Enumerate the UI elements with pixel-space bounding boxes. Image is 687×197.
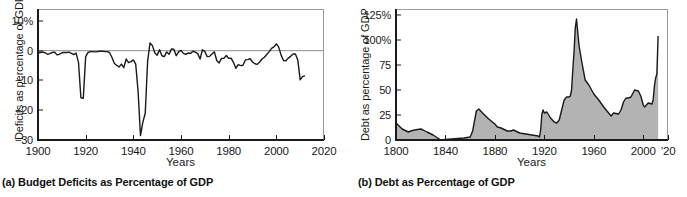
x-axis-title-b: Years — [395, 156, 668, 168]
x-axis-spine-a — [37, 139, 324, 141]
debt-area-series — [396, 9, 668, 140]
panel-caption-a: (a) Budget Deficits as Percentage of GDP — [2, 176, 213, 188]
deficit-line-series — [38, 9, 324, 140]
y-axis-spine-a — [37, 9, 39, 140]
y-tick-label: 50 — [379, 84, 396, 96]
x-axis-spine-b — [395, 139, 668, 141]
y-tick-label: 25 — [379, 109, 396, 121]
y-tick-label: −20 — [15, 104, 38, 116]
y-tick-label: 100% — [364, 34, 396, 46]
x-tick-mark — [324, 135, 325, 140]
x-axis-title-a: Years — [37, 156, 324, 168]
chart-panel-budget-deficits: Deficits as percentage of GDP 10%0−10−20… — [0, 0, 344, 197]
x-tick-mark — [668, 135, 669, 140]
plot-area-b: 125%100%7550250 180018401880192019602000… — [396, 9, 668, 140]
panel-caption-b: (b) Debt as Percentage of GDP — [358, 176, 515, 188]
y-tick-label: −10 — [15, 74, 38, 86]
y-tick-label: 10% — [12, 15, 38, 27]
y-tick-label: 125% — [364, 9, 396, 21]
y-axis-title-b: Debt as percentage of GDP — [359, 8, 371, 141]
y-axis-spine-b — [395, 9, 397, 140]
plot-area-a: 10%0−10−20−30 19001920194019601980200020… — [38, 9, 324, 140]
chart-panel-debt: Debt as percentage of GDP 125%100%755025… — [344, 0, 687, 197]
y-tick-label: 75 — [379, 59, 396, 71]
figure-row: Deficits as percentage of GDP 10%0−10−20… — [0, 0, 687, 197]
